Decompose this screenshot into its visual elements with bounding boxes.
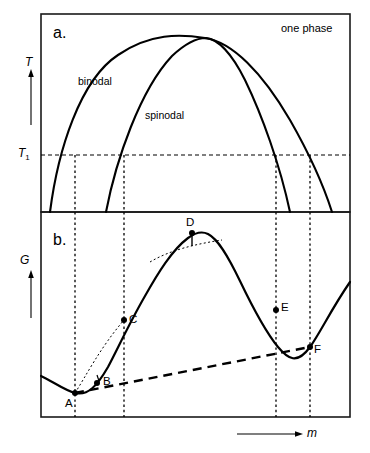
figure-canvas [0,0,370,453]
g-axis-arrow-head [28,270,34,278]
point-marker-b [94,380,100,386]
m-axis-label: m [307,427,317,439]
point-label-c: C [129,314,137,326]
point-label-f: F [314,344,321,356]
point-marker-a [72,390,78,396]
point-marker-c [121,317,127,323]
t-axis-arrow-head [28,69,34,77]
panel-a-label: a. [53,25,66,41]
chord-under-d [150,240,222,262]
panel-a-frame [41,14,350,212]
binodal-curve [50,36,332,212]
point-marker-d [189,230,195,236]
t1-label-subscript: 1 [25,153,29,162]
point-label-e: E [281,302,289,314]
binodal-label: binodal [78,76,112,87]
m-axis-arrow-head [295,431,303,437]
g-axis-label: G [20,254,29,266]
spinodal-curve [106,38,290,212]
point-label-b: B [103,376,111,388]
one-phase-label: one phase [281,23,332,34]
point-label-a: A [65,398,73,410]
point-marker-f [307,344,313,350]
figure-container: a. one phase T binodal spinodal T1 b. G … [0,0,370,453]
point-marker-e [273,307,279,313]
t1-label: T1 [18,147,30,162]
panel-b-label: b. [53,232,66,248]
point-label-d: D [186,217,194,229]
spinodal-label: spinodal [145,110,184,121]
t-axis-label: T [25,56,32,68]
panel-b-frame [41,212,350,417]
